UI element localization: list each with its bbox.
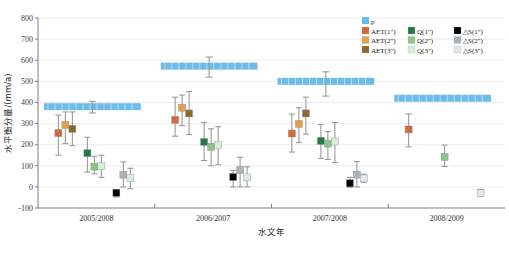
legend-swatch xyxy=(408,37,415,44)
data-point-marker xyxy=(172,116,179,123)
data-point-marker xyxy=(98,163,105,170)
data-point-marker xyxy=(324,140,331,147)
data-point-marker xyxy=(230,173,237,180)
series-Q3 xyxy=(98,123,339,178)
data-point-marker xyxy=(208,143,215,150)
legend-swatch xyxy=(362,37,369,44)
y-axis-tick-label: 800 xyxy=(21,14,33,23)
legend-label: △S(1") xyxy=(463,28,484,36)
y-axis-title: 水平衡分量/(mm/a) xyxy=(3,73,13,152)
legend-swatch xyxy=(454,37,461,44)
data-point-marker xyxy=(201,138,208,145)
legend-label-p: p xyxy=(371,18,375,26)
legend-label: △S(3") xyxy=(463,47,484,55)
legend-swatch xyxy=(454,46,461,53)
legend-label: AET(3") xyxy=(371,47,396,55)
data-point-marker xyxy=(346,180,353,187)
legend-label: AET(2") xyxy=(371,37,396,45)
legend-label: Q(1") xyxy=(417,28,434,36)
data-point-marker xyxy=(55,130,62,137)
data-point-marker xyxy=(244,174,251,181)
chart-canvas: -10001002003004005006007008002005/200820… xyxy=(0,0,509,242)
data-point-marker xyxy=(331,138,338,145)
data-point-marker xyxy=(302,110,309,117)
series-AET3 xyxy=(69,91,310,145)
legend-label: Q(3") xyxy=(417,47,434,55)
x-axis-category-label: 2007/2008 xyxy=(313,214,347,223)
p-band-bar xyxy=(394,95,491,102)
y-axis-tick-label: 700 xyxy=(21,35,33,44)
legend-swatch xyxy=(408,27,415,34)
data-point-marker xyxy=(360,175,367,182)
legend: pAET(1")Q(1")△S(1")AET(2")Q(2")△S(2")AET… xyxy=(362,17,484,55)
y-axis-tick-label: -100 xyxy=(18,204,33,213)
y-axis-tick-label: 300 xyxy=(21,119,33,128)
data-point-marker xyxy=(186,110,193,117)
p-band xyxy=(278,72,375,96)
legend-label: △S(2") xyxy=(463,37,484,45)
y-axis-tick-label: 500 xyxy=(21,77,33,86)
legend-swatch xyxy=(454,27,461,34)
data-point-marker xyxy=(69,125,76,132)
legend-label: Q(2") xyxy=(417,37,434,45)
legend-swatch-p xyxy=(362,17,369,24)
data-point-marker xyxy=(120,171,127,178)
data-point-marker xyxy=(91,163,98,170)
data-point-marker xyxy=(295,120,302,127)
series-S3 xyxy=(127,167,484,197)
legend-label: AET(1") xyxy=(371,28,396,36)
series-S1 xyxy=(113,170,354,197)
y-axis-tick-label: 600 xyxy=(21,56,33,65)
data-point-marker xyxy=(477,190,484,197)
data-point-marker xyxy=(405,126,412,133)
x-axis-title: 水文年 xyxy=(258,227,285,237)
legend-swatch xyxy=(362,46,369,53)
data-point-marker xyxy=(215,141,222,148)
data-point-marker xyxy=(179,104,186,111)
legend-swatch xyxy=(408,46,415,53)
y-axis-tick-label: 200 xyxy=(21,140,33,149)
x-axis-category-label: 2005/2008 xyxy=(79,214,113,223)
y-axis-tick-label: 100 xyxy=(21,162,33,171)
series-S2 xyxy=(120,157,361,187)
data-point-marker xyxy=(237,167,244,174)
data-point-marker xyxy=(288,130,295,137)
p-band xyxy=(394,95,491,102)
series-Q2 xyxy=(91,129,448,174)
p-band xyxy=(44,101,141,113)
x-axis-category-label: 2008/2009 xyxy=(430,214,464,223)
legend-swatch xyxy=(362,27,369,34)
x-axis-category-label: 2006/2007 xyxy=(196,214,230,223)
data-point-marker xyxy=(127,175,134,182)
data-point-marker xyxy=(353,171,360,178)
data-point-marker xyxy=(62,122,69,129)
y-axis-tick-label: 0 xyxy=(29,183,33,192)
data-point-marker xyxy=(317,137,324,144)
data-point-marker xyxy=(441,153,448,160)
data-point-marker xyxy=(84,150,91,157)
data-point-marker xyxy=(113,189,120,196)
y-axis-tick-label: 400 xyxy=(21,98,33,107)
chart-figure: -10001002003004005006007008002005/200820… xyxy=(0,0,509,259)
